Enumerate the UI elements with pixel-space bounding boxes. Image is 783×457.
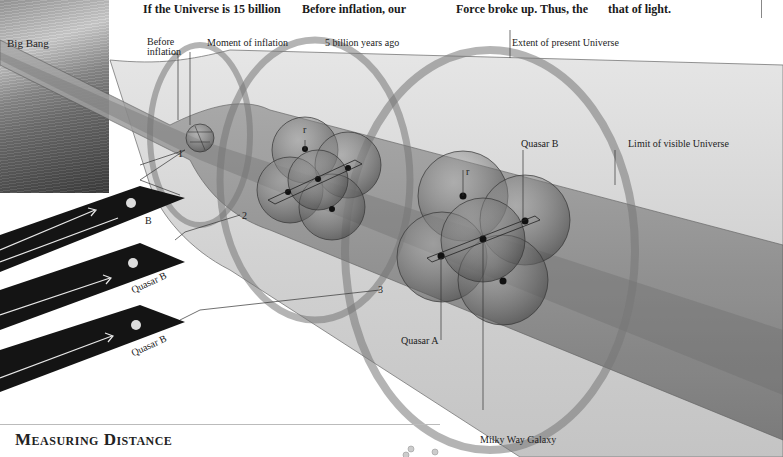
label-moment-of-inflation: Moment of inflation — [207, 37, 288, 48]
label-five-billion-years: 5 billion years ago — [325, 37, 399, 48]
label-before-inflation-line2: inflation — [147, 47, 181, 57]
label-radius-r-stage-2: r — [303, 124, 306, 135]
label-quasar-b: Quasar B — [521, 138, 559, 149]
section-divider — [0, 424, 440, 425]
label-strip-b: B — [145, 215, 152, 226]
decorative-dots — [403, 446, 438, 457]
label-before-inflation: Before inflation — [147, 37, 181, 57]
label-big-bang: Big Bang — [7, 37, 49, 49]
section-title: Measuring Distance — [15, 430, 172, 450]
label-stage-1: 1 — [178, 148, 183, 159]
label-limit-visible-universe: Limit of visible Universe — [628, 138, 729, 149]
universe-expansion-diagram — [0, 0, 783, 457]
label-extent-present-universe: Extent of present Universe — [512, 37, 619, 48]
label-quasar-a: Quasar A — [401, 335, 439, 346]
label-milky-way: Milky Way Galaxy — [480, 434, 556, 445]
label-radius-r-stage-3: r — [466, 166, 469, 177]
label-stage-3: 3 — [378, 284, 383, 295]
label-stage-2: 2 — [242, 210, 247, 221]
